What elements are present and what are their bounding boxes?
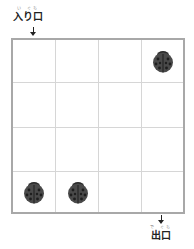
exit-label: で ぐち 出口 (145, 225, 177, 241)
entrance-label: い ぐち 入り口 (10, 6, 46, 22)
grid-line (13, 127, 183, 128)
grid-line (13, 171, 183, 172)
grid-line (55, 40, 56, 212)
ladybug-icon (151, 49, 175, 73)
ladybug-icon (66, 180, 90, 204)
ladybug-icon (22, 180, 46, 204)
entrance-text: 入り口 (10, 11, 46, 22)
grid-line (98, 40, 99, 212)
grid-line (141, 40, 142, 212)
exit-text: 出口 (145, 230, 177, 241)
grid-line (13, 82, 183, 83)
